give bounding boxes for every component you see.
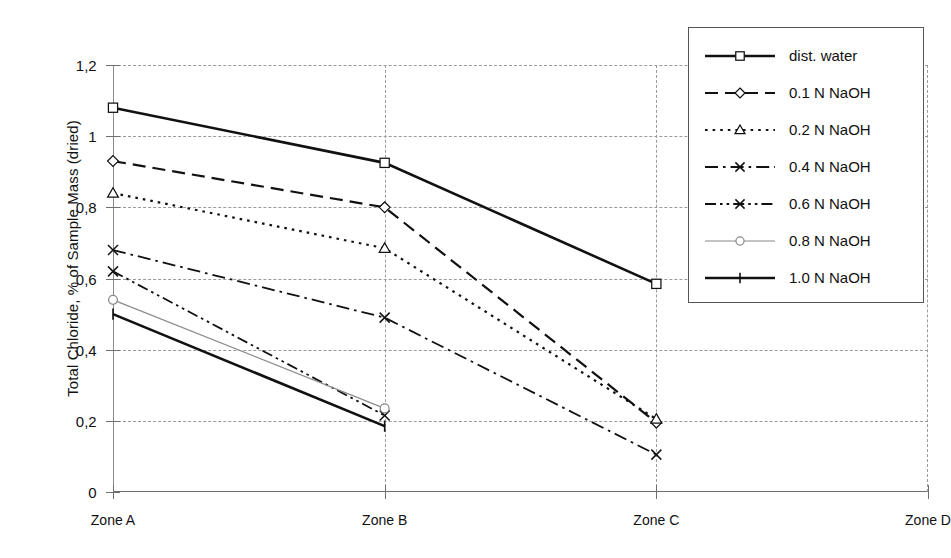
y-axis-label: 1 bbox=[88, 128, 96, 145]
x-axis-label: Zone D bbox=[905, 512, 951, 528]
series-line bbox=[113, 271, 385, 415]
data-point-marker-circle bbox=[736, 236, 744, 244]
y-axis-label: 0,8 bbox=[76, 199, 97, 216]
legend-item[interactable]: 0.2 N NaOH bbox=[689, 111, 923, 148]
series-line bbox=[113, 193, 656, 419]
data-point-marker-diamond bbox=[108, 156, 119, 167]
legend-swatch-icon bbox=[703, 269, 777, 287]
data-point-marker-circle bbox=[109, 295, 118, 304]
legend-label: dist. water bbox=[789, 47, 857, 64]
series-line bbox=[113, 300, 385, 409]
series-line bbox=[113, 108, 656, 284]
legend-swatch-icon bbox=[703, 47, 777, 65]
legend-label: 0.8 N NaOH bbox=[789, 232, 871, 249]
y-axis-label: 0,4 bbox=[76, 341, 97, 358]
legend-label: 0.4 N NaOH bbox=[789, 158, 871, 175]
y-axis-label: 0 bbox=[88, 484, 96, 501]
legend-item[interactable]: 0.6 N NaOH bbox=[689, 185, 923, 222]
data-point-marker-cross bbox=[651, 450, 661, 460]
series-line bbox=[113, 161, 656, 423]
y-axis-label: 0,6 bbox=[76, 270, 97, 287]
legend-swatch-icon bbox=[703, 84, 777, 102]
data-point-marker-square bbox=[736, 51, 744, 59]
legend-item[interactable]: 0.1 N NaOH bbox=[689, 74, 923, 111]
series-line bbox=[113, 314, 385, 426]
legend-swatch-icon bbox=[703, 195, 777, 213]
legend-swatch-icon bbox=[703, 121, 777, 139]
data-point-marker-square bbox=[652, 279, 661, 288]
data-point-marker-square bbox=[380, 158, 389, 167]
legend-label: 0.1 N NaOH bbox=[789, 84, 871, 101]
data-point-marker-square bbox=[108, 103, 117, 112]
y-axis-label: 0,2 bbox=[76, 412, 97, 429]
x-axis-label: Zone B bbox=[362, 512, 407, 528]
x-axis-label: Zone C bbox=[633, 512, 679, 528]
data-point-marker-cross bbox=[108, 266, 118, 276]
legend-label: 0.2 N NaOH bbox=[789, 121, 871, 138]
x-axis-tick bbox=[928, 485, 929, 499]
legend-label: 1.0 N NaOH bbox=[789, 269, 871, 286]
x-axis-label: Zone A bbox=[91, 512, 135, 528]
legend-item[interactable]: 1.0 N NaOH bbox=[689, 259, 923, 296]
data-point-marker-circle bbox=[380, 404, 389, 413]
legend-item[interactable]: 0.4 N NaOH bbox=[689, 148, 923, 185]
legend-swatch-icon bbox=[703, 232, 777, 250]
data-point-marker-triangle bbox=[379, 243, 390, 252]
legend-swatch-icon bbox=[703, 158, 777, 176]
legend-item[interactable]: 0.8 N NaOH bbox=[689, 222, 923, 259]
legend-item[interactable]: dist. water bbox=[689, 37, 923, 74]
y-axis-title: Total Chloride, % of Sample Mass (dried) bbox=[64, 69, 81, 449]
legend-label: 0.6 N NaOH bbox=[789, 195, 871, 212]
data-point-marker-diamond bbox=[735, 88, 745, 98]
y-axis-label: 1,2 bbox=[76, 57, 97, 74]
data-point-marker-triangle bbox=[651, 414, 662, 423]
data-point-marker-triangle bbox=[108, 188, 119, 197]
legend: dist. water0.1 N NaOH0.2 N NaOH0.4 N NaO… bbox=[688, 27, 924, 303]
